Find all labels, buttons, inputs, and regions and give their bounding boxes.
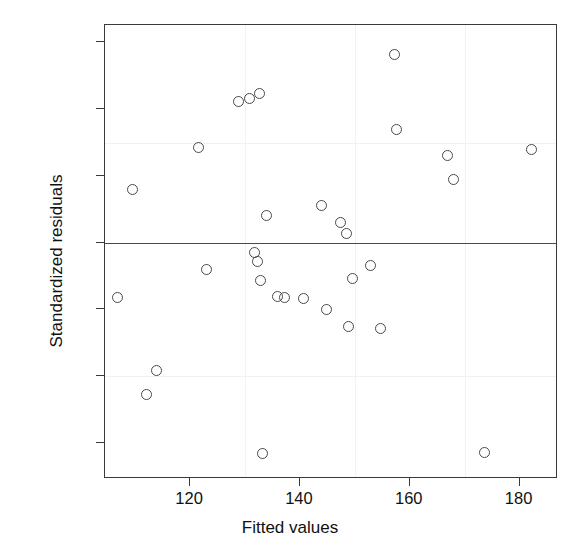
data-point bbox=[151, 365, 162, 376]
data-point bbox=[389, 49, 400, 60]
x-axis-tick-label: 180 bbox=[484, 489, 554, 508]
data-point bbox=[347, 273, 358, 284]
gridline-horizontal bbox=[105, 376, 556, 377]
y-axis-tick-mark bbox=[96, 442, 104, 443]
data-point bbox=[252, 256, 263, 267]
data-point bbox=[255, 275, 266, 286]
zero-reference-line bbox=[105, 243, 556, 244]
data-point bbox=[141, 389, 152, 400]
x-axis-tick-mark bbox=[519, 478, 520, 486]
data-point bbox=[233, 96, 244, 107]
plot-panel bbox=[104, 24, 557, 478]
gridline-vertical bbox=[355, 25, 356, 477]
y-axis-tick-mark bbox=[96, 175, 104, 176]
data-point bbox=[479, 447, 490, 458]
x-axis-tick-label: 160 bbox=[374, 489, 444, 508]
data-point bbox=[343, 321, 354, 332]
data-point bbox=[193, 142, 204, 153]
gridline-vertical bbox=[465, 25, 466, 477]
residual-scatter-plot-figure: Fitted values Standardized residuals 1.5… bbox=[0, 0, 580, 555]
data-point bbox=[112, 292, 123, 303]
y-axis-label: Standardized residuals bbox=[47, 61, 67, 461]
data-point bbox=[448, 174, 459, 185]
data-point bbox=[365, 260, 376, 271]
data-point bbox=[298, 293, 309, 304]
y-axis-tick-mark bbox=[96, 242, 104, 243]
data-point bbox=[391, 124, 402, 135]
data-point bbox=[335, 217, 346, 228]
x-axis-tick-mark bbox=[299, 478, 300, 486]
data-point bbox=[254, 88, 265, 99]
data-point bbox=[526, 144, 537, 155]
x-axis-tick-mark bbox=[409, 478, 410, 486]
x-axis-tick-mark bbox=[189, 478, 190, 486]
data-point bbox=[442, 150, 453, 161]
x-axis-tick-label: 140 bbox=[264, 489, 334, 508]
data-point bbox=[279, 292, 290, 303]
y-axis-tick-mark bbox=[96, 41, 104, 42]
y-axis-tick-mark bbox=[96, 375, 104, 376]
data-point bbox=[127, 184, 138, 195]
y-axis-tick-mark bbox=[96, 108, 104, 109]
x-axis-tick-label: 120 bbox=[154, 489, 224, 508]
gridline-horizontal bbox=[105, 143, 556, 144]
data-point bbox=[375, 323, 386, 334]
data-point bbox=[257, 448, 268, 459]
data-point bbox=[261, 210, 272, 221]
data-point bbox=[316, 200, 327, 211]
y-axis-tick-mark bbox=[96, 308, 104, 309]
data-point bbox=[321, 304, 332, 315]
data-point bbox=[201, 264, 212, 275]
data-point bbox=[341, 228, 352, 239]
x-axis-label: Fitted values bbox=[0, 518, 580, 538]
